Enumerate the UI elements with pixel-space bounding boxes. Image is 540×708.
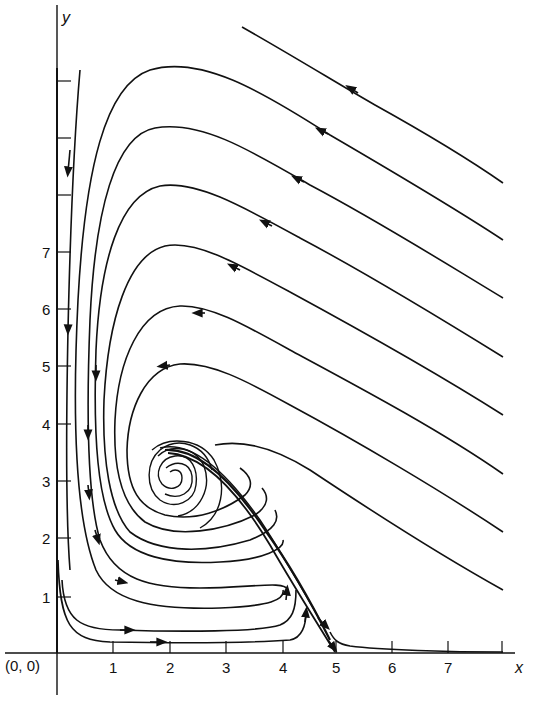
- x-tick-label-7: 7: [444, 660, 452, 675]
- phase-portrait-plot: [0, 0, 540, 708]
- x-axis-label: x: [515, 660, 523, 676]
- x-tick-label-1: 1: [109, 660, 117, 675]
- y-tick-label-2: 2: [42, 531, 50, 546]
- trajectories: [57, 27, 503, 653]
- x-tick-label-3: 3: [222, 660, 230, 675]
- x-tick-label-6: 6: [388, 660, 396, 675]
- y-axis-label: y: [62, 10, 70, 26]
- axes: [5, 5, 515, 695]
- y-tick-label-5: 5: [42, 359, 50, 374]
- y-tick-label-6: 6: [42, 302, 50, 317]
- y-tick-label-3: 3: [42, 474, 50, 489]
- y-tick-label-1: 1: [42, 590, 50, 605]
- origin-label: (0, 0): [5, 658, 40, 673]
- x-tick-label-2: 2: [166, 660, 174, 675]
- y-tick-label-4: 4: [42, 417, 50, 432]
- spiral-focus: [149, 441, 335, 652]
- y-tick-label-7: 7: [42, 245, 50, 260]
- x-tick-label-4: 4: [279, 660, 287, 675]
- x-tick-label-5: 5: [332, 660, 340, 675]
